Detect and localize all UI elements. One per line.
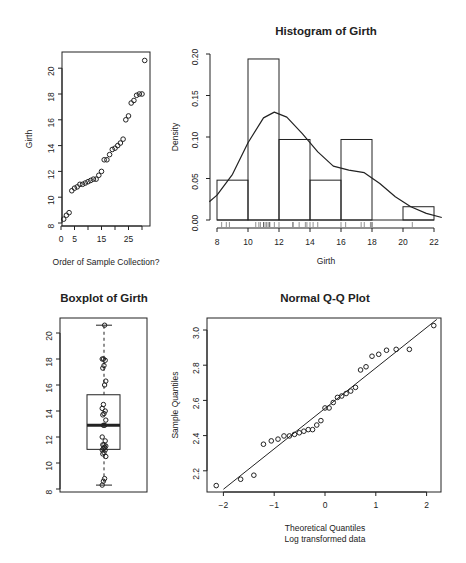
histogram-panel: Histogram of Girth0.000.050.100.150.20De… (170, 25, 442, 266)
boxplot-title: Boxplot of Girth (60, 292, 148, 304)
y-tick-label: 18 (46, 92, 56, 102)
boxplot-panel: Boxplot of Girth8101214161820 (44, 292, 148, 494)
histogram-bar (310, 180, 341, 220)
data-point (104, 418, 108, 422)
histogram-bar (248, 59, 279, 220)
data-point (431, 323, 436, 328)
reference-line (223, 319, 436, 489)
histogram-bar (279, 139, 310, 220)
x-tick-label: 1 (373, 500, 378, 510)
data-point (252, 473, 257, 478)
x-tick-label: −1 (269, 500, 279, 510)
data-point (319, 418, 324, 423)
y-tick-label: 2.8 (191, 362, 201, 374)
data-point (115, 143, 120, 148)
y-tick-label: 12 (44, 435, 54, 445)
y-tick-label: 10 (44, 461, 54, 471)
data-point (100, 435, 104, 439)
qq-title: Normal Q-Q Plot (280, 292, 370, 304)
y-tick-label: 16 (46, 118, 56, 128)
y-tick-label: 2.6 (191, 397, 201, 409)
x-tick-label: −2 (219, 500, 229, 510)
x-tick-label: 22 (429, 237, 439, 247)
x-axis-label: Theoretical Quantiles (285, 523, 365, 533)
x-axis-sublabel: Log transformed data (285, 534, 366, 544)
data-point (358, 368, 363, 373)
x-tick-label: 0 (323, 500, 328, 510)
data-point (99, 169, 104, 174)
data-point (370, 354, 375, 359)
histogram-bar (217, 180, 248, 220)
y-tick-label: 10 (46, 195, 56, 205)
histogram-title: Histogram of Girth (275, 25, 377, 37)
data-point (261, 442, 266, 447)
data-point (64, 213, 69, 218)
y-tick-label: 14 (44, 409, 54, 419)
data-point (297, 430, 302, 435)
data-point (282, 434, 287, 439)
y-tick-label: 14 (46, 144, 56, 154)
data-point (70, 188, 75, 193)
x-tick-label: 8 (215, 237, 220, 247)
x-tick-label: 12 (274, 237, 284, 247)
y-tick-label: 20 (44, 331, 54, 341)
x-tick-label: 2 (424, 500, 429, 510)
data-point (407, 347, 412, 352)
x-tick-label: 5 (72, 234, 77, 244)
data-point (126, 114, 131, 119)
y-tick-label: 2.4 (191, 432, 201, 444)
x-tick-label: 14 (305, 237, 315, 247)
y-tick-label: 0.00 (190, 214, 200, 231)
histogram-bar (341, 139, 372, 220)
data-point (238, 477, 243, 482)
data-point (276, 437, 281, 442)
y-tick-label: 12 (46, 169, 56, 179)
order-scatter-panel: 8101214161820051525Order of Sample Colle… (24, 52, 160, 267)
y-tick-label: 0.10 (190, 131, 200, 148)
data-point (384, 348, 389, 353)
y-tick-label: 0.20 (190, 48, 200, 65)
data-point (376, 352, 381, 357)
y-tick-label: 8 (44, 489, 54, 494)
data-point (129, 101, 134, 106)
density-curve (209, 112, 441, 217)
data-point (269, 439, 274, 444)
x-tick-label: 25 (124, 234, 134, 244)
y-tick-label: 16 (44, 383, 54, 393)
y-axis-label: Girth (24, 130, 34, 149)
x-tick-label: 15 (97, 234, 107, 244)
plot-frame (62, 52, 150, 226)
plots-canvas: 8101214161820051525Order of Sample Colle… (0, 0, 466, 563)
data-point (348, 389, 353, 394)
y-axis-label: Sample Quantiles (170, 371, 180, 438)
data-point (214, 483, 219, 488)
y-tick-label: 0.15 (190, 90, 200, 107)
x-tick-label: 18 (367, 237, 377, 247)
y-tick-label: 2.2 (191, 468, 201, 480)
data-point (121, 137, 126, 142)
data-point (353, 385, 358, 390)
x-tick-label: 16 (336, 237, 346, 247)
y-tick-label: 20 (46, 66, 56, 76)
x-axis-label: Girth (317, 256, 336, 266)
data-point (132, 98, 137, 103)
data-point (142, 58, 147, 63)
y-tick-label: 3.0 (191, 327, 201, 339)
y-tick-label: 8 (46, 223, 56, 228)
y-tick-label: 0.05 (190, 173, 200, 190)
y-axis-label: Density (170, 122, 180, 151)
qq-plot-panel: Normal Q-Q Plot2.22.42.62.83.0Sample Qua… (170, 292, 441, 544)
x-tick-label: 10 (243, 237, 253, 247)
x-tick-label: 0 (59, 234, 64, 244)
data-point (314, 423, 319, 428)
data-point (107, 152, 112, 157)
data-point (364, 364, 369, 369)
x-tick-label: 20 (398, 237, 408, 247)
x-axis-label: Order of Sample Collection? (53, 257, 160, 267)
data-point (67, 210, 72, 215)
data-point (394, 347, 399, 352)
histogram-bar (403, 207, 434, 220)
y-tick-label: 18 (44, 357, 54, 367)
